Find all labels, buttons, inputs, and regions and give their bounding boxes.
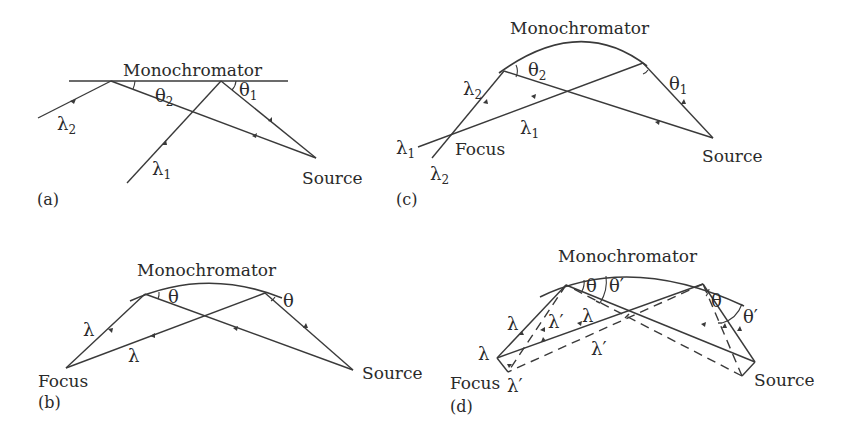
arrow-icon [737,326,742,331]
focus-label: Focus [455,139,505,159]
angle-arc-theta [158,292,159,299]
arrow-icon [531,94,536,99]
tick-mark [596,301,600,303]
lambda2-end-label: λ2 [430,163,449,187]
lambda1-label: λ1 [152,158,171,182]
lambda1-end-label: λ1 [396,137,415,161]
angle-theta1-label: θ1 [669,73,687,97]
incident-ray-lambda2 [111,81,316,158]
incident-ray-lambda-prime-right [703,284,742,376]
angle-arc-theta1 [232,81,236,90]
curved-monochromator-crystal [130,283,282,301]
monochromator-label: Monochromator [123,60,263,80]
monochromator-label: Monochromator [558,246,698,266]
angle-arc-theta-prime [722,304,742,323]
focus-extent [497,358,508,372]
arrow-icon [540,327,545,332]
incident-ray-right [265,293,353,370]
lambda-label: λ [83,319,94,340]
angle-theta-label: θ [168,286,179,307]
arrow-icon [681,99,686,104]
source-label: Source [362,363,423,383]
angle-theta2-label: θ2 [528,59,546,83]
lambda-label: λ [128,345,139,366]
angle-arc-theta2 [516,65,517,77]
angle-theta-label: θ [711,290,722,311]
angle-theta-label: θ [586,275,597,296]
angle-theta2-label: θ2 [155,85,173,109]
panel-a: Monochromator θ2 θ1 λ2 λ1 Source (a) [37,60,363,209]
angle-theta1-label: θ1 [239,79,257,103]
lambda-prime-label: λ′ [548,311,564,332]
incident-ray-lambda1 [221,81,316,158]
focus-label: Focus [450,373,500,393]
arrow-icon [701,322,706,327]
lambda-label: λ [507,313,518,334]
curved-monochromator-crystal [499,42,647,73]
lambda2-label: λ2 [463,78,482,102]
source-label: Source [302,168,363,188]
panel-label-a: (a) [37,190,59,209]
angle-arc-theta1 [643,70,648,74]
arrow-icon [303,323,308,328]
angle-theta-label: θ [283,290,294,311]
angle-arc-theta2 [133,81,135,89]
panel-d: Monochromator θ θ′ θ [450,246,815,416]
arrow-icon [483,99,488,104]
angle-theta-prime-label: θ′ [743,306,758,327]
focus-label: Focus [38,371,88,391]
lambda1-label: λ1 [520,117,539,141]
source-label: Source [754,370,815,390]
monochromator-label: Monochromator [510,18,650,38]
panel-b: Monochromator θ θ λ λ Focus Source (b) [38,260,423,412]
diffracted-ray-lambda1 [127,81,221,183]
panel-label-d: (d) [450,397,473,416]
source-label: Source [702,146,763,166]
diffracted-ray-right [66,293,265,368]
panel-c: Monochromator θ2 θ1 λ2 λ1 λ1 λ2 Focus So… [396,18,763,209]
lambda-label: λ [582,305,593,326]
lambda-prime-label: λ′ [591,338,607,359]
monochromator-label: Monochromator [137,260,277,280]
lambda2-label: λ2 [57,113,76,137]
angle-theta-prime-label: θ′ [609,275,624,296]
lambda-prime-focus-label: λ′ [507,375,523,396]
lambda-focus-label: λ [478,343,489,364]
panel-label-c: (c) [396,190,417,209]
diagram-figure: Monochromator θ2 θ1 λ2 λ1 Source (a) Mon… [0,0,846,441]
arrow-icon [722,323,727,328]
panel-label-b: (b) [38,393,61,412]
